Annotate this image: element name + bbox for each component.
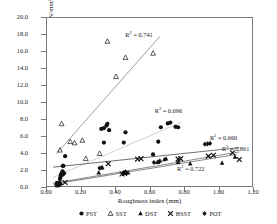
data-point-bsst	[106, 161, 111, 166]
y-axis-tick-label: 12.0	[2, 82, 28, 88]
legend-label: DST	[145, 210, 157, 217]
filled-circle-icon	[78, 210, 85, 217]
legend-label: POT	[209, 210, 221, 217]
data-point-sst	[123, 55, 128, 60]
y-axis-tick-label: 20.0	[2, 14, 28, 20]
r2-annotation-pot: R2 = 0.660	[210, 133, 237, 141]
filled-triangle-icon	[137, 210, 144, 217]
scatter-canvas	[47, 18, 254, 188]
data-point-bsst	[139, 156, 144, 161]
x-axis-tick-mark	[81, 187, 82, 192]
data-point-pst	[159, 125, 163, 129]
x-axis-tick-mark	[184, 187, 185, 192]
data-point-pst	[123, 130, 127, 134]
data-point-pst	[156, 140, 160, 144]
y-axis-tick-mark	[41, 34, 46, 35]
trendline-pst	[53, 122, 182, 177]
data-point-dst	[220, 160, 225, 164]
data-point-bsst	[206, 154, 211, 159]
y-axis-tick-label: 14.0	[2, 65, 28, 71]
x-axis-tick-mark	[115, 187, 116, 192]
r2-annotation-pst: R2 = 0.696	[155, 106, 182, 114]
trendline-dst	[53, 154, 237, 184]
data-point-pst	[107, 128, 111, 132]
y-axis-tick-label: 16.0	[2, 48, 28, 54]
chart-figure: Shear bond strength (N/mm²) Roughness in…	[0, 0, 277, 224]
legend-item-dst[interactable]: DST	[137, 210, 158, 217]
plot-area	[46, 17, 253, 187]
x-axis-tick-mark	[219, 187, 220, 192]
y-axis-tick-label: 6.0	[2, 133, 28, 139]
legend-item-sst[interactable]: SST	[107, 210, 127, 217]
y-axis-tick-mark	[41, 17, 46, 18]
r2-annotation-dst: R2 = 0.722	[177, 164, 204, 172]
data-point-sst	[80, 138, 85, 143]
x-cross-icon	[167, 210, 174, 217]
data-point-sst	[151, 51, 156, 56]
data-point-pst	[176, 125, 180, 129]
data-point-sst	[105, 39, 110, 44]
y-axis-tick-mark	[41, 85, 46, 86]
legend-item-bsst[interactable]: BSST	[167, 210, 191, 217]
data-point-bsst	[237, 157, 242, 162]
y-axis-tick-mark	[41, 68, 46, 69]
data-point-sst	[114, 74, 119, 79]
y-axis-tick-label: 2.0	[2, 167, 28, 173]
legend-item-pot[interactable]: POT	[201, 210, 222, 217]
x-axis-tick-mark	[150, 187, 151, 192]
data-point-pst	[151, 152, 155, 156]
y-axis-tick-mark	[41, 153, 46, 154]
data-point-pst	[105, 122, 109, 126]
y-axis-tick-label: 4.0	[2, 150, 28, 156]
y-axis-tick-mark	[41, 170, 46, 171]
x-axis-tick-mark	[253, 187, 254, 192]
r2-annotation-sst: R2 = 0.741	[125, 30, 152, 38]
data-point-sst	[97, 151, 102, 156]
data-point-pot	[152, 160, 156, 165]
y-axis-tick-label: 10.0	[2, 99, 28, 105]
data-point-pot	[203, 142, 207, 147]
chart-legend: PSTSSTDSTBSSTPOT	[46, 207, 253, 219]
open-triangle-icon	[107, 210, 114, 217]
legend-label: SST	[116, 210, 127, 217]
data-point-sst	[83, 156, 88, 161]
data-point-pst	[102, 140, 106, 144]
data-point-dst	[96, 170, 101, 174]
filled-diamond-icon	[201, 210, 208, 217]
y-axis-tick-mark	[41, 119, 46, 120]
data-point-pst	[122, 140, 126, 144]
data-point-pst	[168, 120, 172, 124]
trendline-sst	[56, 36, 160, 153]
data-point-sst	[72, 140, 77, 145]
x-axis-tick-mark	[46, 187, 47, 192]
y-axis-tick-label: 18.0	[2, 31, 28, 37]
y-axis-tick-mark	[41, 51, 46, 52]
legend-item-pst[interactable]: PST	[78, 210, 98, 217]
legend-label: BSST	[176, 210, 191, 217]
y-axis-tick-mark	[41, 102, 46, 103]
y-axis-tick-label: 0.0	[2, 184, 28, 190]
data-point-pst	[63, 154, 67, 158]
data-point-bsst	[211, 153, 216, 158]
r2-annotation-bsst: R2 = 0.861	[222, 144, 249, 152]
legend-label: PST	[86, 210, 97, 217]
y-axis-tick-mark	[41, 136, 46, 137]
x-axis-title: Roughness index (mm)	[46, 197, 253, 204]
y-axis-tick-label: 8.0	[2, 116, 28, 122]
data-point-sst	[59, 121, 64, 126]
